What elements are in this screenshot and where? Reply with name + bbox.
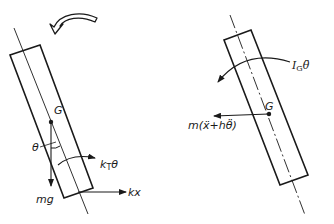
label-inertial-force: m(ẍ+hθ̈)	[188, 120, 237, 131]
label-g-left: G	[54, 105, 63, 116]
label-theta-ddot: θ̈	[303, 59, 310, 72]
label-torsional-moment: kTθ	[100, 159, 118, 172]
rotation-arrow-icon	[50, 14, 97, 34]
label-g-right: G	[265, 101, 274, 112]
label-theta-var: θ	[111, 158, 118, 171]
angle-arc	[51, 146, 60, 148]
torsional-moment-arrow	[58, 157, 95, 165]
label-theta: θ	[32, 142, 39, 153]
inertial-force-arrow	[214, 114, 269, 116]
left-panel	[10, 14, 126, 214]
label-inertia-moment: IGθ̈	[292, 60, 309, 73]
diagram-canvas	[0, 0, 334, 224]
right-panel	[214, 15, 308, 215]
label-weight: mg	[36, 194, 54, 205]
label-spring-force: kx	[128, 187, 141, 198]
